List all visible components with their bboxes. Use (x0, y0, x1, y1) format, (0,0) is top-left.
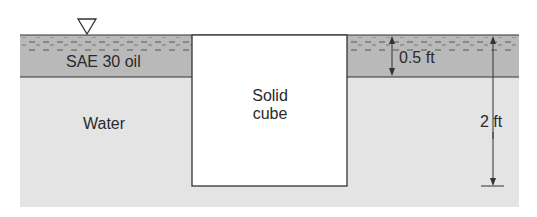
free-surface-symbol-icon (78, 19, 96, 34)
oil-depth-label: 0.5 ft (399, 49, 435, 66)
cube-depth-label: 2 ft (480, 113, 503, 130)
diagram-canvas: SAE 30 oil Water Solid cube 0.5 ft 2 ft (0, 0, 537, 217)
cube-label-line2: cube (253, 105, 288, 122)
water-label: Water (83, 115, 126, 132)
oil-label: SAE 30 oil (66, 53, 141, 70)
cube-label-line1: Solid (252, 87, 288, 104)
